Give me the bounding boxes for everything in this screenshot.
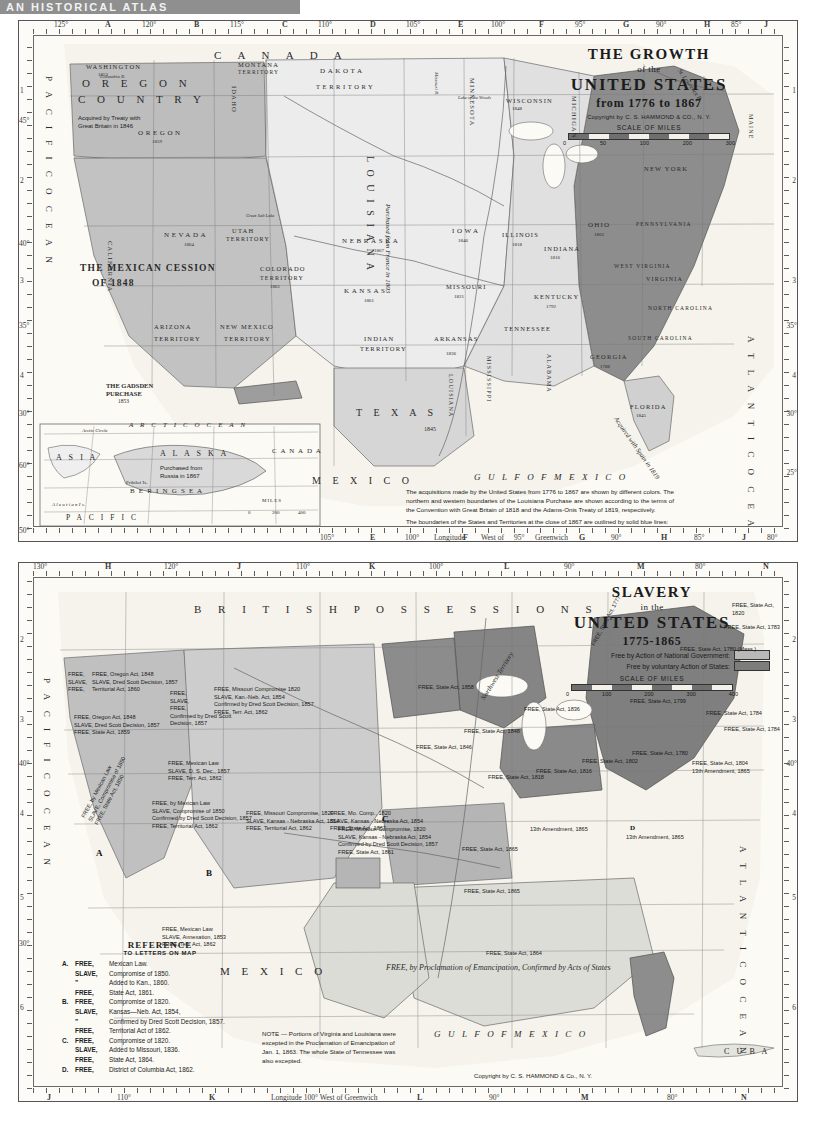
annotation-washington: FREE, SLAVE, FREE,: [68, 671, 87, 694]
growth-explanation: The acquisitions made by the United Stat…: [406, 488, 674, 527]
reference-line-status: ”: [75, 1017, 109, 1027]
coord-top-17: J: [764, 20, 768, 29]
inset-arctic-circle: Arctic Circle: [82, 428, 108, 433]
state-georgia-year: 1788: [600, 364, 610, 369]
label-gadsden-year: 1853: [118, 399, 129, 405]
reference-line: A.FREE,Mexican Law.: [62, 959, 258, 969]
label-louisiana-purchase: L O U I S I A N A: [364, 156, 375, 273]
reference-line: C.FREE,Compromise of 1820.: [62, 1036, 258, 1046]
coord-left-5: 35°: [19, 321, 30, 330]
reference-line-letter: [62, 1055, 75, 1065]
river-columbia: Columbia R.: [100, 74, 125, 79]
state-louisiana: LOUISIANA: [448, 374, 454, 417]
growth-title-line2: of the: [534, 64, 764, 74]
coord-bottom-4: F: [463, 533, 468, 542]
state-indiana: INDIANA: [544, 246, 580, 253]
reference-line: D.FREE,District of Columbia Act, 1862.: [62, 1065, 258, 1075]
coord-top-11: F: [539, 20, 544, 29]
reference-lines: A.FREE,Mexican Law.SLAVE,Compromise of 1…: [62, 959, 258, 1074]
annotation-dakota: FREE, Missouri Compromise 1820 SLAVE, Ka…: [214, 686, 314, 716]
reference-line-text: Confirmed by Dred Scott Decision, 1857.: [109, 1017, 258, 1027]
coord-bottom-8: G: [579, 533, 585, 542]
slavery-coord-top-5: K: [369, 562, 375, 571]
legend-row-voluntary: Free by voluntary Action of States:: [534, 661, 770, 671]
state-nebraska-year: 1867: [374, 248, 384, 253]
coord-top-6: 110°: [318, 20, 332, 29]
river-missouri: Missouri R.: [434, 72, 439, 95]
state-nebraska: NEBRASKA: [342, 238, 401, 245]
great-salt-lake: Great Salt Lake: [246, 214, 274, 219]
annotation-missouri: FREE, State Act, 1865: [462, 846, 518, 854]
label-canada-inset: C A N A D A: [272, 448, 322, 455]
reference-line-status: FREE,: [75, 1065, 109, 1075]
annotation-delaware: 13th Amendment, 1865: [626, 834, 684, 842]
state-west-virginia: WEST VIRGINIA: [614, 264, 671, 270]
label-alaska: A L A S K A: [160, 450, 229, 458]
slavery-label-gulf-of-mexico: G U L F O F M E X I C O: [434, 1030, 588, 1039]
label-texas: T E X A S: [356, 408, 437, 419]
coord-top-1: A: [105, 20, 111, 29]
growth-explanation-p2: The boundaries of the States and Territo…: [406, 518, 674, 527]
slavery-coord-left-2: 40°: [19, 759, 30, 768]
map-letter-A: A: [96, 848, 103, 858]
state-georgia: GEORGIA: [590, 354, 628, 361]
slavery-coord-top-9: M: [637, 562, 645, 571]
annotation-maine: FREE, State Act, 1820: [732, 602, 782, 617]
label-mexican-cession-line1: THE MEXICAN CESSION: [80, 264, 216, 274]
slavery-coord-left-6: 6: [20, 1003, 24, 1012]
reference-line-text: Compromise of 1850.: [109, 969, 258, 979]
label-oregon-country-line1: O R E G O N: [82, 78, 191, 90]
state-wisconsin: WISCONSIN: [506, 98, 553, 105]
slavery-reference-legend: REFERENCE TO LETTERS ON MAP A.FREE,Mexic…: [62, 940, 258, 1074]
state-florida: FLORIDA: [630, 404, 667, 411]
slavery-coord-bottom-5: 90°: [489, 1093, 500, 1102]
reference-line-text: Territorial Act of 1862.: [109, 1026, 258, 1036]
state-oregon: OREGON: [138, 130, 183, 137]
growth-explanation-p1: The acquisitions made by the United Stat…: [406, 488, 674, 515]
state-utah-sub: TERRITORY: [226, 236, 270, 242]
annotation-minnesota: FREE, State Act, 1858: [418, 684, 474, 692]
coord-top-10: 100°: [491, 20, 505, 29]
coord-top-13: G: [623, 20, 629, 29]
reference-line-text: Compromise of 1820.: [109, 997, 258, 1007]
slavery-coord-left-4: 5: [20, 893, 24, 902]
reference-line-status: SLAVE,: [75, 969, 109, 979]
state-arkansas-year: 1836: [446, 351, 456, 356]
state-maine: MAINE: [748, 114, 754, 140]
coord-bottom-2: 100°: [405, 533, 419, 542]
state-minnesota: MINNESOTA: [468, 78, 475, 127]
state-ohio-year: 1803: [594, 232, 604, 237]
state-tennessee: TENNESSEE: [504, 326, 551, 333]
reference-line-text: Compromise of 1820.: [109, 1036, 258, 1046]
growth-title-cartouche: THE GROWTH of the UNITED STATES from 177…: [534, 46, 764, 146]
reference-line-letter: [62, 1026, 75, 1036]
state-illinois: ILLINOIS: [502, 232, 539, 239]
coord-left-4: 3: [20, 276, 24, 285]
inset-scale-0: 0: [248, 510, 251, 515]
reference-line: FREE,State Act, 1864.: [62, 1055, 258, 1065]
state-iowa: IOWA: [452, 228, 481, 235]
label-pacific-inset: P A C I F I C: [66, 514, 139, 522]
slavery-coord-left-5: 30°: [19, 939, 30, 948]
state-idaho: IDAHO: [230, 86, 237, 113]
slavery-coord-bottom-3: Longitude 100° West of Greenwich: [271, 1093, 377, 1102]
slavery-coord-bottom-7: 80°: [667, 1093, 678, 1102]
slavery-note-text: NOTE — Portions of Virginia and Louisian…: [262, 1030, 402, 1066]
map-growth-of-united-states: 125° A 120° B 115° C 110° D 105° E 100° …: [18, 20, 798, 542]
legend-swatch-voluntary: [734, 661, 770, 671]
slavery-scale-num-1: 100: [602, 691, 611, 697]
coord-bottom-6: 95°: [514, 533, 525, 542]
annotation-texas: FREE, State Act, 1864: [486, 950, 542, 958]
label-louisiana-purchase-note: Purchased from France in 1803: [384, 204, 391, 293]
slavery-coord-top-8: 90°: [564, 562, 575, 571]
slavery-ruler-top: [33, 571, 785, 576]
slavery-coord-top-7: L: [504, 562, 509, 571]
growth-title-line3: UNITED STATES: [534, 75, 764, 95]
slavery-coord-top-3: J: [237, 562, 241, 571]
reference-line: B.FREE,Compromise of 1820.: [62, 997, 258, 1007]
reference-line-status: FREE,: [75, 1036, 109, 1046]
coord-top-4: 115°: [230, 20, 244, 29]
reference-line-letter: [62, 988, 75, 998]
coord-right-4: 35°: [787, 321, 798, 330]
label-asia: A S I A: [56, 454, 98, 462]
